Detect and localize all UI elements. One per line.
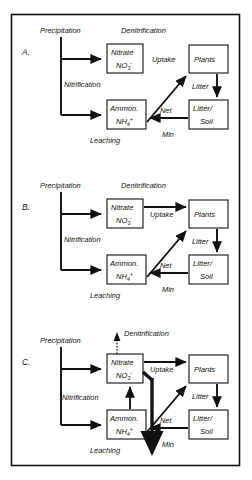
ammonium-formula-c: NH xyxy=(116,427,127,436)
litter-soil-label2-b: Soil xyxy=(200,272,213,281)
nitrate-superscript-c: - xyxy=(130,370,132,376)
ammonium-label-a: Ammon. xyxy=(109,104,138,113)
uptake-arrow-b xyxy=(147,231,186,277)
nitrate-label-c: Nitrate xyxy=(111,358,133,367)
plants-label-b: Plants xyxy=(194,210,215,219)
nitrate-superscript-b: - xyxy=(130,215,132,221)
litter-soil-label1-b: Litter/ xyxy=(193,259,213,268)
net-label-c: Net xyxy=(160,416,172,425)
uptake-label-b: Uptake xyxy=(150,210,173,219)
nitrate-label-b: Nitrate xyxy=(111,203,133,212)
nitrification-label-a: Nitrification xyxy=(64,80,101,89)
litter-label-a: Litter xyxy=(192,82,209,91)
ammonium-formula-a: NH xyxy=(116,117,127,126)
leaching-label-b: Leaching xyxy=(90,291,121,300)
uptake-label-c: Uptake xyxy=(150,365,173,374)
litter-soil-label2-c: Soil xyxy=(200,427,213,436)
panel-a: A. Nitrate NO3- Ammon. NH4+ Plants Litte… xyxy=(21,26,228,145)
svg-text:NO3-: NO3- xyxy=(116,370,132,381)
panel-a-id: A. xyxy=(21,47,30,57)
denitrification-label-c: Denitrification xyxy=(124,329,169,338)
litter-label-c: Litter xyxy=(192,392,209,401)
precipitation-label-b: Precipitation xyxy=(40,181,81,190)
denitrification-label-b: Denitrification xyxy=(121,181,166,190)
uptake-label-a: Uptake xyxy=(152,55,175,64)
ammonium-superscript-a: + xyxy=(130,116,133,122)
panel-b-id: B. xyxy=(22,202,30,212)
min-label-c: Min xyxy=(162,440,174,449)
svg-text:NO3-: NO3- xyxy=(116,215,132,226)
ammonium-superscript-c: + xyxy=(130,426,133,432)
nitrate-superscript-a: - xyxy=(130,60,132,66)
panel-c-id: C. xyxy=(22,357,30,367)
nitrate-formula-b: NO xyxy=(116,216,127,225)
nitrate-formula-c: NO xyxy=(116,371,127,380)
svg-text:NO3-: NO3- xyxy=(116,60,132,71)
plants-label-a: Plants xyxy=(194,55,215,64)
nitrate-label-a: Nitrate xyxy=(111,48,133,57)
litter-soil-label1-a: Litter/ xyxy=(193,104,213,113)
litter-label-b: Litter xyxy=(192,237,209,246)
precipitation-label-c: Precipitation xyxy=(40,336,81,345)
leaching-label-c: Leaching xyxy=(90,446,121,455)
litter-soil-label1-c: Litter/ xyxy=(193,414,213,423)
denitrification-label-a: Denitrification xyxy=(121,26,166,35)
net-label-b: Net xyxy=(160,261,172,270)
ammonium-label-b: Ammon. xyxy=(109,259,138,268)
min-label-a: Min xyxy=(162,130,174,139)
litter-soil-label2-a: Soil xyxy=(200,117,213,126)
ammonium-formula-b: NH xyxy=(116,272,127,281)
leaching-label-a: Leaching xyxy=(90,136,121,145)
panel-c: C. Nitrate NO3- Ammon. NH4+ Plants Litte… xyxy=(22,329,228,455)
nitrogen-cycle-diagram: A. Nitrate NO3- Ammon. NH4+ Plants Litte… xyxy=(0,0,252,480)
plants-label-c: Plants xyxy=(194,365,215,374)
nitrification-label-c: Nitrification xyxy=(62,393,99,402)
figure-canvas: A. Nitrate NO3- Ammon. NH4+ Plants Litte… xyxy=(0,0,252,480)
net-label-a: Net xyxy=(160,106,172,115)
panel-b: B. Nitrate NO3- Ammon. NH4+ Plants Litte… xyxy=(22,181,228,300)
nitrate-formula-a: NO xyxy=(116,61,127,70)
ammonium-label-c: Ammon. xyxy=(109,414,138,423)
min-label-b: Min xyxy=(162,285,174,294)
denitrification-arrowhead-c xyxy=(114,332,121,341)
ammonium-superscript-b: + xyxy=(130,271,133,277)
nitrification-label-b: Nitrification xyxy=(64,235,101,244)
precipitation-label-a: Precipitation xyxy=(40,26,81,35)
uptake-arrow-a xyxy=(147,76,186,122)
